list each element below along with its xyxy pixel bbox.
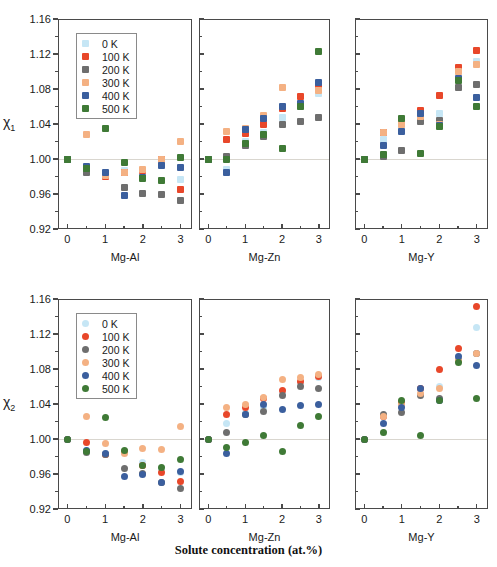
data-point xyxy=(279,121,286,128)
data-point xyxy=(455,84,462,91)
legend-marker xyxy=(82,320,89,327)
data-point xyxy=(177,154,184,161)
data-point xyxy=(398,128,405,135)
data-point xyxy=(177,197,184,204)
data-point xyxy=(473,61,480,68)
legend-item[interactable]: 400 K xyxy=(82,89,129,102)
x-tick-label: 1 xyxy=(399,513,405,525)
data-point xyxy=(139,175,146,182)
data-point xyxy=(297,93,304,100)
data-point xyxy=(315,48,322,55)
data-point xyxy=(279,145,286,152)
x-tick-label: 3 xyxy=(474,233,480,245)
data-point xyxy=(158,177,165,184)
data-point xyxy=(177,485,184,492)
data-point xyxy=(158,162,165,169)
x-tick-label: 1 xyxy=(399,233,405,245)
data-point xyxy=(260,408,267,415)
panel-x-title: Mg-Zn xyxy=(249,531,281,543)
legend-item[interactable]: 300 K xyxy=(82,356,129,369)
legend-item[interactable]: 400 K xyxy=(82,369,129,382)
chart-row-chi1: 0.920.961.001.041.081.121.160123Mg-Alχ10… xyxy=(0,8,497,268)
data-point xyxy=(121,465,128,472)
data-point xyxy=(102,125,109,132)
legend-item[interactable]: 300 K xyxy=(82,76,129,89)
legend-label: 400 K xyxy=(102,370,129,382)
legend-item[interactable]: 0 K xyxy=(82,317,129,330)
data-point xyxy=(361,436,368,443)
data-point xyxy=(223,404,230,411)
data-point xyxy=(223,411,230,418)
y-tick-label: 0.92 xyxy=(30,223,51,235)
y-tick-label: 1.00 xyxy=(30,153,51,165)
data-point xyxy=(223,169,230,176)
legend-label: 500 K xyxy=(102,103,129,115)
y-tick-label: 1.00 xyxy=(30,433,51,445)
y-tick-label: 0.96 xyxy=(30,188,51,200)
legend-marker xyxy=(82,66,89,73)
data-point xyxy=(473,324,480,331)
data-point xyxy=(205,156,212,163)
legend-item[interactable]: 200 K xyxy=(82,343,129,356)
chart-panel-chi1-Mg-Zn: 0123Mg-Zn xyxy=(199,19,330,229)
panel-x-title: Mg-Zn xyxy=(249,251,281,263)
x-tick-label: 3 xyxy=(474,513,480,525)
data-point xyxy=(473,94,480,101)
legend-marker xyxy=(82,372,89,379)
data-point xyxy=(436,110,443,117)
data-point xyxy=(177,423,184,430)
data-point xyxy=(177,164,184,171)
data-point xyxy=(260,115,267,122)
legend-item[interactable]: 0 K xyxy=(82,37,129,50)
legend-item[interactable]: 100 K xyxy=(82,50,129,63)
data-point xyxy=(205,436,212,443)
legend-item[interactable]: 500 K xyxy=(82,382,129,395)
x-tick-label: 0 xyxy=(205,513,211,525)
data-point xyxy=(297,103,304,110)
legend-label: 100 K xyxy=(102,51,129,63)
data-point-layer xyxy=(199,299,330,509)
legend-item[interactable]: 500 K xyxy=(82,102,129,115)
data-point xyxy=(102,440,109,447)
panel-y-title: χ2 xyxy=(3,394,15,413)
data-point xyxy=(177,186,184,193)
x-tick-label: 2 xyxy=(279,233,285,245)
data-point xyxy=(223,429,230,436)
data-point xyxy=(242,411,249,418)
data-point xyxy=(473,47,480,54)
legend-box: 0 K100 K200 K300 K400 K500 K xyxy=(76,313,137,399)
y-tick-label: 1.04 xyxy=(30,398,51,410)
panel-x-title: Mg-Y xyxy=(408,251,434,263)
x-tick-label: 1 xyxy=(242,233,248,245)
data-point xyxy=(455,68,462,75)
data-point xyxy=(436,397,443,404)
panel-x-title: Mg-Al xyxy=(111,251,140,263)
legend-item[interactable]: 200 K xyxy=(82,63,129,76)
data-point xyxy=(436,385,443,392)
x-tick-label: 1 xyxy=(102,513,108,525)
legend-marker xyxy=(82,53,89,60)
legend-label: 300 K xyxy=(102,77,129,89)
x-tick-label: 3 xyxy=(316,513,322,525)
data-point xyxy=(279,392,286,399)
data-point xyxy=(102,169,109,176)
chart-panel-chi2-Mg-Zn: 0123Mg-Zn xyxy=(199,299,330,509)
legend-label: 0 K xyxy=(102,38,118,50)
data-point xyxy=(380,142,387,149)
x-tick-label: 3 xyxy=(178,233,184,245)
x-tick-label: 2 xyxy=(279,513,285,525)
data-point xyxy=(279,114,286,121)
data-point xyxy=(297,118,304,125)
legend-label: 500 K xyxy=(102,383,129,395)
data-point xyxy=(279,84,286,91)
x-tick-label: 0 xyxy=(361,513,367,525)
y-tick-label: 1.04 xyxy=(30,118,51,130)
chart-panel-chi1-Mg-Y: 0123Mg-Y xyxy=(355,19,488,229)
legend-label: 300 K xyxy=(102,357,129,369)
data-point xyxy=(473,395,480,402)
x-tick-label: 3 xyxy=(316,233,322,245)
y-tick-label: 1.08 xyxy=(30,363,51,375)
data-point xyxy=(315,401,322,408)
data-point xyxy=(121,169,128,176)
legend-item[interactable]: 100 K xyxy=(82,330,129,343)
